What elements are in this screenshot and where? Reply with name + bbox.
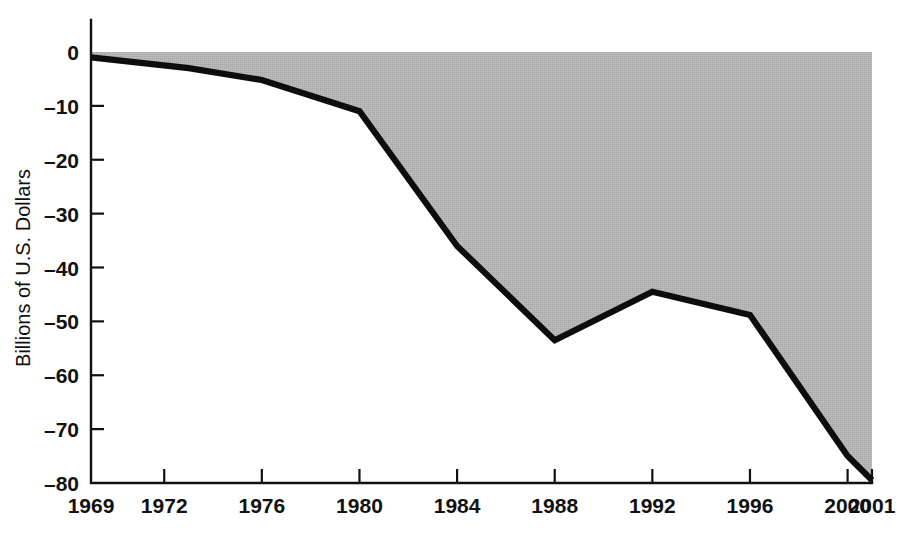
x-tick-label: 1976 — [238, 494, 285, 517]
x-tick-label: 1996 — [727, 494, 774, 517]
x-tick-label: 1972 — [141, 494, 188, 517]
chart-figure: 0–10–20–30–40–50–60–70–80 19691972197619… — [0, 0, 908, 545]
x-tick-label: 1980 — [336, 494, 383, 517]
y-tick-label: –60 — [44, 364, 79, 387]
y-tick-label: –50 — [44, 310, 79, 333]
area-chart: 0–10–20–30–40–50–60–70–80 19691972197619… — [0, 0, 908, 545]
y-tick-label: –40 — [44, 257, 79, 280]
y-tick-label: –30 — [44, 203, 79, 226]
y-tick-label: –70 — [44, 418, 79, 441]
y-axis-ticks — [91, 106, 104, 429]
x-axis-ticks — [164, 469, 872, 483]
x-tick-label: 1984 — [434, 494, 481, 517]
x-tick-label: 1969 — [68, 494, 115, 517]
y-tick-label: 0 — [67, 41, 79, 64]
y-axis-title: Billions of U.S. Dollars — [12, 169, 34, 367]
y-tick-label: –20 — [44, 149, 79, 172]
x-tick-label: 1992 — [629, 494, 676, 517]
x-tick-label: 2001 — [849, 494, 896, 517]
y-axis-tick-labels: 0–10–20–30–40–50–60–70–80 — [44, 41, 79, 495]
x-tick-label: 1988 — [531, 494, 578, 517]
x-axis-tick-labels: 1969197219761980198419881992199620002001 — [68, 494, 896, 517]
y-tick-label: –80 — [44, 472, 79, 495]
y-tick-label: –10 — [44, 95, 79, 118]
